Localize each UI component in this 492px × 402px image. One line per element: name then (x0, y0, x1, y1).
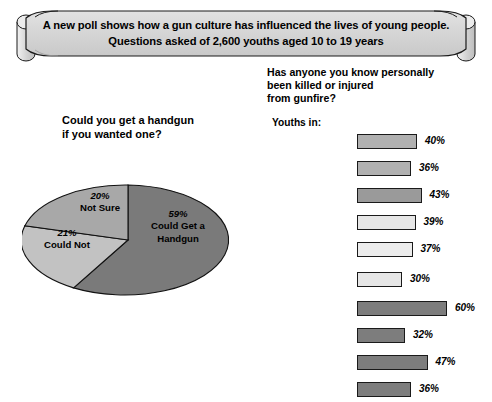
bar-fill (357, 272, 402, 287)
bar-fill (357, 188, 422, 203)
bar-fill (357, 134, 417, 149)
bar-value-label: 36% (419, 383, 439, 394)
bar-value-label: 43% (430, 189, 450, 200)
bar-fill (357, 382, 411, 397)
bar-chart-rows: Central City40%Suburbs36%Small Towns/Rur… (0, 0, 492, 402)
bar-value-label: 40% (425, 135, 445, 146)
bar-fill (357, 301, 447, 316)
bar-value-label: 47% (436, 356, 456, 367)
bar-fill (357, 242, 413, 257)
bar-value-label: 30% (410, 273, 430, 284)
bar-fill (357, 355, 428, 370)
bar-value-label: 32% (413, 329, 433, 340)
bar-fill (357, 328, 405, 343)
bar-value-label: 37% (421, 243, 441, 254)
bar-value-label: 39% (424, 216, 444, 227)
bar-fill (357, 215, 416, 230)
bar-value-label: 60% (455, 302, 475, 313)
bar-fill (357, 161, 411, 176)
infographic-root: A new poll shows how a gun culture has i… (0, 0, 492, 402)
bar-value-label: 36% (419, 162, 439, 173)
